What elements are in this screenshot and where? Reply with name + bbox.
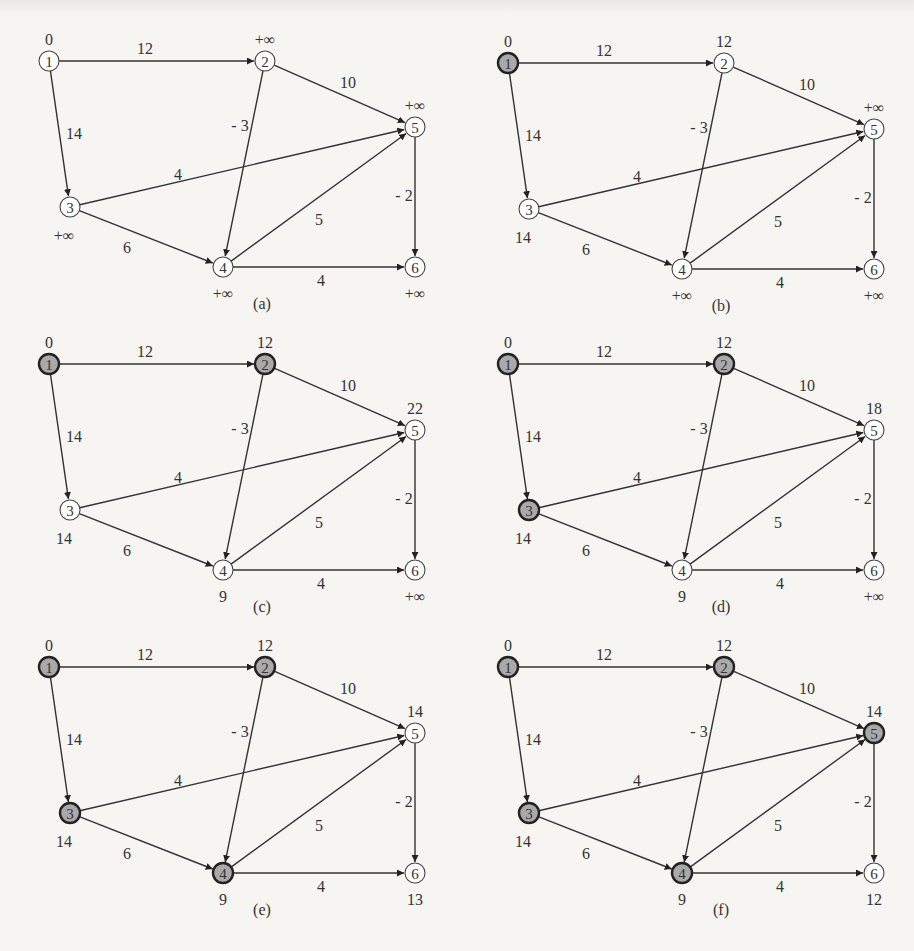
node-id-label: 6 [870, 262, 878, 278]
node-4: 4+∞ [213, 257, 233, 302]
graph-svg: 121410- 34654- 21021231449514613(e) [0, 606, 454, 916]
node-id-label: 5 [411, 120, 419, 136]
edge-3-5 [80, 432, 405, 507]
edge-weight-label: - 2 [395, 490, 412, 507]
node-id-label: 2 [261, 54, 269, 70]
edge-weight-label: 10 [340, 74, 356, 91]
edge-4-5 [231, 739, 406, 867]
edge-weight-label: 14 [66, 428, 82, 445]
node-5: 518 [864, 400, 884, 440]
distance-label: 13 [407, 891, 423, 908]
node-1: 10 [498, 334, 518, 374]
node-4: 49 [672, 560, 692, 605]
distance-label: 14 [407, 703, 423, 720]
edge-weight-label: 4 [174, 469, 182, 486]
node-id-label: 6 [411, 260, 419, 276]
distance-label: 14 [56, 530, 72, 547]
edge-3-4 [538, 514, 671, 566]
node-id-label: 1 [504, 56, 512, 72]
node-4: 49 [213, 863, 233, 908]
edge-weight-label: - 2 [395, 187, 412, 204]
edge-4-5 [690, 739, 865, 867]
edge-weight-label: 12 [596, 646, 612, 663]
node-id-label: 2 [720, 357, 728, 373]
node-2: 212 [255, 637, 275, 677]
node-6: 613 [405, 863, 425, 908]
edge-weight-label: 4 [174, 166, 182, 183]
distance-label: 9 [678, 588, 686, 605]
node-5: 522 [405, 400, 425, 440]
node-id-label: 4 [219, 866, 227, 882]
distance-label: 9 [219, 588, 227, 605]
edge-weight-label: - 3 [231, 117, 248, 134]
edge-weight-label: 4 [633, 469, 641, 486]
node-5: 514 [864, 703, 884, 743]
node-1: 10 [39, 637, 59, 677]
node-id-label: 1 [504, 660, 512, 676]
distance-label: 12 [716, 33, 732, 50]
edge-3-4 [538, 817, 671, 869]
edge-weight-label: 6 [582, 845, 590, 862]
edge-weight-label: - 2 [854, 189, 871, 206]
edge-3-5 [539, 735, 864, 810]
edge-3-4 [538, 213, 671, 265]
edge-weight-label: - 3 [690, 420, 707, 437]
node-id-label: 1 [45, 54, 53, 70]
node-id-label: 1 [504, 357, 512, 373]
distance-label: 9 [219, 891, 227, 908]
edge-weight-label: 14 [525, 731, 541, 748]
panel-d: 121410- 34654- 210212314495186+∞(d) [459, 303, 913, 613]
node-3: 314 [515, 803, 539, 850]
distance-label: +∞ [405, 588, 425, 605]
edge-weight-label: 6 [123, 542, 131, 559]
graph-svg: 121410- 34654- 2102+∞3+∞4+∞5+∞6+∞(a) [0, 0, 454, 310]
node-id-label: 3 [66, 200, 74, 216]
node-5: 5+∞ [864, 99, 884, 139]
graph-svg: 121410- 34654- 2102123144+∞5+∞6+∞(b) [459, 2, 913, 312]
panel-caption: (f) [713, 901, 729, 919]
edge-weight-label: 5 [315, 514, 323, 531]
edge-weight-label: 4 [776, 878, 784, 895]
edge-weight-label: 4 [776, 575, 784, 592]
edge-weight-label: 12 [137, 646, 153, 663]
edge-weight-label: 6 [582, 241, 590, 258]
node-3: 3+∞ [54, 197, 80, 244]
distance-label: 12 [716, 637, 732, 654]
edge-weight-label: 12 [137, 343, 153, 360]
distance-label: 12 [866, 891, 882, 908]
node-id-label: 3 [525, 806, 533, 822]
edge-weight-label: 10 [799, 680, 815, 697]
edge-weight-label: 14 [525, 428, 541, 445]
node-id-label: 4 [219, 563, 227, 579]
edge-4-5 [231, 436, 406, 564]
edge-weight-label: 14 [525, 127, 541, 144]
distance-label: 0 [504, 334, 512, 351]
node-3: 314 [56, 500, 80, 547]
node-id-label: 4 [678, 563, 686, 579]
edge-weight-label: 6 [123, 239, 131, 256]
node-id-label: 3 [525, 503, 533, 519]
edge-3-4 [79, 514, 212, 566]
edge-weight-label: 4 [317, 272, 325, 289]
edge-weight-label: - 3 [231, 723, 248, 740]
distance-label: +∞ [864, 99, 884, 116]
edge-weight-label: 4 [317, 575, 325, 592]
edge-weight-label: 10 [340, 377, 356, 394]
node-4: 49 [213, 560, 233, 605]
edge-weight-label: 5 [315, 817, 323, 834]
panel-caption: (e) [253, 901, 271, 919]
node-id-label: 2 [720, 56, 728, 72]
node-id-label: 2 [720, 660, 728, 676]
edge-weight-label: - 2 [854, 793, 871, 810]
node-3: 314 [515, 199, 539, 246]
distance-label: +∞ [405, 97, 425, 114]
edge-weight-label: 12 [596, 42, 612, 59]
distance-label: 14 [56, 833, 72, 850]
node-id-label: 2 [261, 660, 269, 676]
node-3: 314 [515, 500, 539, 547]
edge-weight-label: 5 [774, 817, 782, 834]
node-id-label: 6 [411, 866, 419, 882]
edge-3-4 [79, 817, 212, 869]
distance-label: 0 [504, 637, 512, 654]
node-2: 2+∞ [255, 31, 275, 71]
